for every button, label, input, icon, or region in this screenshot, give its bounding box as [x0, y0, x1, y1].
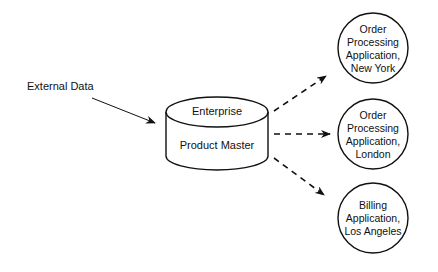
database-body-label: Product Master [180, 139, 255, 151]
database-top-label: Enterprise [192, 105, 242, 117]
target-line: Billing [359, 199, 387, 211]
target-line: Application, [346, 212, 400, 224]
target-line: Order [360, 109, 387, 121]
target-line: Processing [347, 122, 399, 134]
target-new-york: Order Processing Application, New York [338, 13, 408, 83]
enterprise-product-master-database: Enterprise Product Master [166, 97, 268, 170]
target-line: London [355, 148, 390, 160]
target-line: Order [360, 23, 387, 35]
external-data-label: External Data [27, 80, 95, 92]
external-data-source: External Data [27, 80, 155, 123]
distribution-arrows [274, 76, 330, 195]
target-los-angeles: Billing Application, Los Angeles [338, 183, 408, 253]
target-line: New York [351, 62, 396, 74]
target-line: Los Angeles [344, 225, 401, 237]
dashed-arrow-new-york [274, 76, 326, 111]
data-flow-diagram: External Data Enterprise Product Master … [0, 0, 438, 272]
target-london: Order Processing Application, London [338, 99, 408, 169]
external-data-arrow [92, 98, 155, 123]
dashed-arrow-los-angeles [274, 158, 324, 195]
target-line: Application, [346, 49, 400, 61]
target-line: Processing [347, 36, 399, 48]
target-line: Application, [346, 135, 400, 147]
